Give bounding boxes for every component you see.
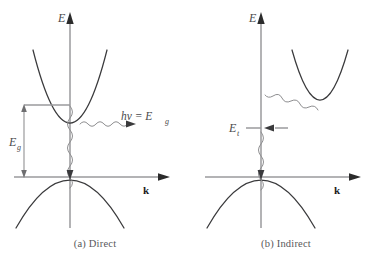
momentum-axis-label-direct: k <box>143 184 150 196</box>
photon-energy-label-subscript-direct: g <box>165 117 169 126</box>
energy-axis-arrowhead-indirect <box>257 12 264 24</box>
momentum-axis-label-indirect: k <box>334 184 341 196</box>
energy-axis-label-indirect: E <box>248 11 257 25</box>
bandgap-label-direct: E <box>8 135 17 149</box>
trap-level-label-subscript-indirect: t <box>237 129 240 138</box>
band-structure-figure: E k E g hν = E g <box>0 0 381 275</box>
caption-direct: (a) Direct <box>0 238 190 249</box>
energy-axis-label-direct: E <box>57 11 66 25</box>
indirect-plot: E k E t <box>191 0 381 245</box>
momentum-axis-arrowhead-indirect <box>349 173 361 180</box>
photon-energy-label-direct: hν = E <box>121 110 152 122</box>
photon-emission-squiggle-direct <box>80 122 128 127</box>
panel-direct: E k E g hν = E g <box>0 0 190 275</box>
energy-axis-arrowhead-direct <box>66 12 73 24</box>
panel-indirect: E k E t (b) Indirect <box>191 0 381 275</box>
conduction-band-curve-indirect <box>292 50 348 100</box>
bandgap-label-subscript-direct: g <box>17 143 21 152</box>
direct-plot: E k E g hν = E g <box>0 0 190 245</box>
trap-level-label-indirect: E <box>228 121 237 135</box>
trap-capture-arrowhead-indirect <box>264 125 274 132</box>
carrier-capture-squiggle-indirect <box>265 94 318 110</box>
momentum-axis-arrowhead-direct <box>158 173 170 180</box>
caption-indirect: (b) Indirect <box>191 238 381 249</box>
